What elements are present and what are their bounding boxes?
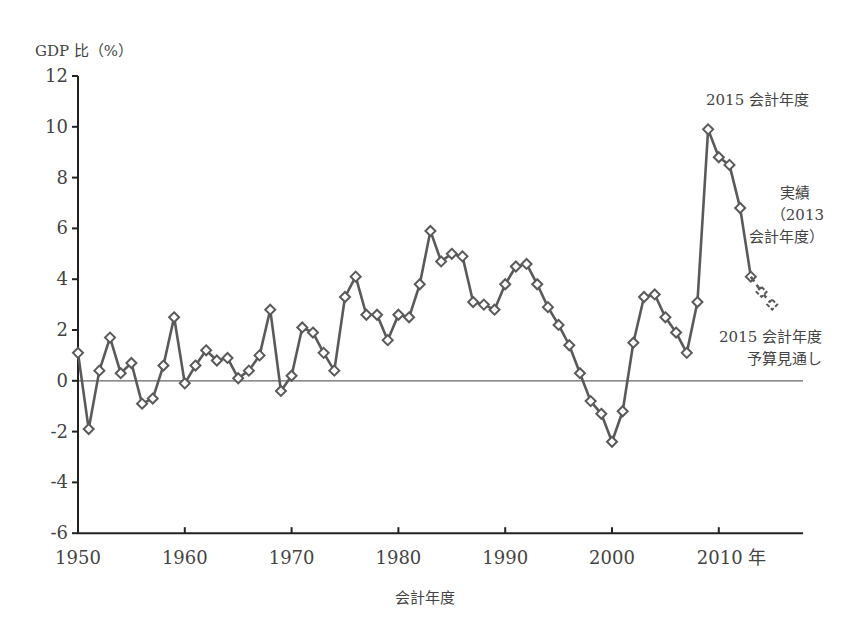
data-point-marker [425,226,435,236]
data-point-marker [297,322,307,332]
data-point-marker [575,368,585,378]
data-point-marker [703,124,713,134]
data-point-marker [372,310,382,320]
data-point-marker [265,305,275,315]
data-point-marker [383,335,393,345]
annotation-actual-line1: 実績 [744,182,824,204]
annotation-budget-line1: 2015 会計年度 [700,326,822,348]
data-point-marker [650,289,660,299]
actual-line [78,129,751,441]
data-point-marker [692,297,702,307]
y-tick-label: -2 [50,421,68,442]
data-point-marker [468,297,478,307]
y-tick-label: 12 [45,65,68,86]
y-tick-label: 8 [57,167,68,188]
x-tick-label: 2000 [589,547,635,568]
annotation-actual: 実績 （2013 会計年度） [744,182,824,248]
x-tick-label: 2010 年 [697,547,767,568]
data-point-marker [308,328,318,338]
x-tick-label: 1980 [375,547,421,568]
data-point-marker [158,361,168,371]
data-point-marker [361,310,371,320]
data-point-marker [404,312,414,322]
data-point-marker [105,333,115,343]
annotation-actual-line3: 会計年度） [744,226,824,248]
data-point-marker [340,292,350,302]
y-tick-label: 6 [57,217,68,238]
data-point-marker [415,279,425,289]
data-point-marker [84,424,94,434]
x-tick-label: 1960 [162,547,208,568]
annotation-budget: 2015 会計年度 予算見通し [700,326,822,370]
y-tick-label: 4 [57,268,68,289]
y-tick-label: -6 [50,522,68,543]
y-tick-label: -4 [50,471,68,492]
data-point-marker [532,279,542,289]
data-point-marker [628,338,638,348]
x-tick-label: 1990 [482,547,528,568]
annotation-peak: 2015 会計年度 [706,89,809,111]
data-point-marker [169,312,179,322]
data-point-marker [639,292,649,302]
y-axis-label: GDP 比（%） [35,40,133,62]
data-point-marker [479,300,489,310]
data-point-marker [137,399,147,409]
data-point-marker [457,251,467,261]
data-point-marker [522,259,532,269]
data-series [73,124,777,446]
y-tick-label: 2 [57,319,68,340]
data-point-marker [607,437,617,447]
data-point-marker [94,366,104,376]
data-point-marker [564,340,574,350]
data-point-marker [73,348,83,358]
data-point-marker [148,394,158,404]
y-tick-label: 0 [57,370,68,391]
x-tick-label: 1970 [269,547,315,568]
data-point-marker [351,272,361,282]
x-tick-label: 1950 [55,547,101,568]
data-point-marker [393,310,403,320]
y-axis-ticks: 121086420-2-4-6 [45,65,78,543]
data-point-marker [490,305,500,315]
annotation-actual-line2: （2013 [744,204,824,226]
data-point-marker [618,406,628,416]
x-axis-label: 会計年度 [395,587,455,609]
data-point-marker [223,353,233,363]
data-point-marker [682,348,692,358]
annotation-budget-line2: 予算見通し [700,348,822,370]
y-tick-label: 10 [45,116,68,137]
